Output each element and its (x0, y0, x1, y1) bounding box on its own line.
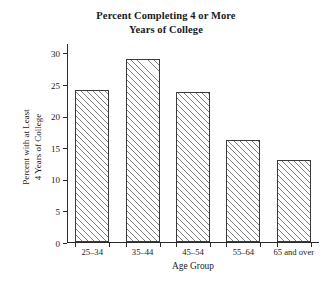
chart-title-line-1: Percent Completing 4 or More (96, 10, 235, 21)
y-axis-tick: 15 (63, 148, 67, 149)
bar (75, 90, 109, 242)
y-axis-tick: 25 (63, 85, 67, 86)
x-axis-tick (210, 243, 211, 247)
y-axis-tick: 5 (63, 211, 67, 212)
chart-title-line-2: Years of College (0, 23, 332, 37)
x-axis-tick (176, 243, 177, 247)
y-axis-tick-label: 25 (51, 81, 60, 90)
x-axis-category-label: 55–64 (233, 247, 254, 257)
y-axis-tick: 0 (63, 243, 67, 244)
y-axis-tick-label: 5 (56, 207, 61, 216)
x-axis-line (67, 242, 319, 243)
y-axis-tick-label: 0 (56, 239, 61, 248)
x-axis-category-label: 45–54 (182, 247, 203, 257)
bar (126, 59, 160, 242)
y-axis-tick-label: 20 (51, 113, 60, 122)
x-axis-title: Age Group (67, 261, 319, 272)
x-axis-tick (226, 243, 227, 247)
x-axis-tick (75, 243, 76, 247)
y-axis-tick-label: 15 (51, 144, 60, 153)
chart-title: Percent Completing 4 or More Years of Co… (0, 9, 332, 36)
y-axis-tick: 20 (63, 117, 67, 118)
y-axis-title-line-2: 4 Years of College (32, 109, 44, 185)
bar-chart-figure: Percent Completing 4 or More Years of Co… (0, 0, 332, 286)
x-axis-category-label: 65 and over (274, 247, 315, 257)
x-axis-tick (109, 243, 110, 247)
bar (176, 92, 210, 242)
bar (277, 160, 311, 242)
y-axis-tick: 30 (63, 53, 67, 54)
plot-area: 051015202530 (67, 44, 319, 243)
y-axis-tick-label: 10 (51, 176, 60, 185)
x-axis-category-label: 25–34 (81, 247, 102, 257)
bar (226, 140, 260, 242)
y-axis-title: Percent with at Least 4 Years of College (19, 72, 45, 222)
y-axis-title-line-1: Percent with at Least (21, 109, 31, 185)
x-axis-category-label: 35–44 (132, 247, 153, 257)
x-axis-tick (126, 243, 127, 247)
x-axis-tick (260, 243, 261, 247)
y-axis-line (67, 44, 68, 243)
y-axis-tick-label: 30 (51, 49, 60, 58)
y-axis-tick: 10 (63, 180, 67, 181)
x-axis-tick (160, 243, 161, 247)
